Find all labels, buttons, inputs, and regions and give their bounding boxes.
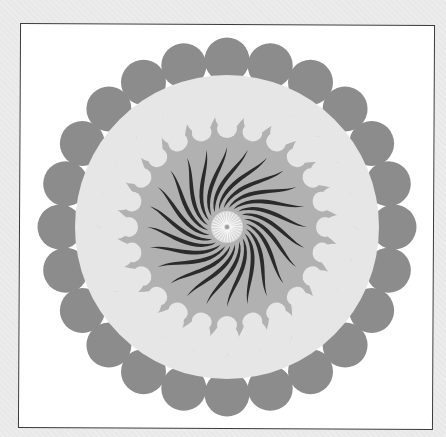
rosette-mandala xyxy=(0,0,446,437)
